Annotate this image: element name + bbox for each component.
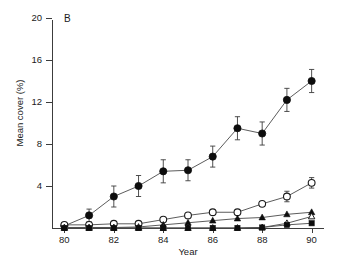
series-filled-circle [61,69,315,229]
marker-filled-square [284,222,289,227]
marker-filled-square [309,221,314,226]
marker-open-circle [259,200,266,207]
marker-filled-square [62,225,67,230]
marker-filled-circle [160,168,167,175]
marker-filled-square [161,225,166,230]
marker-open-circle [185,212,192,219]
marker-filled-circle [308,77,315,84]
marker-filled-circle [234,125,241,132]
series-canvas [0,0,342,266]
marker-filled-square [185,225,190,230]
marker-open-circle [209,209,216,216]
marker-filled-circle [184,167,191,174]
plot-area [0,0,342,266]
marker-filled-square [260,225,265,230]
marker-filled-circle [110,193,117,200]
marker-open-circle [308,179,315,186]
marker-filled-circle [135,182,142,189]
marker-filled-circle [209,153,216,160]
marker-filled-square [136,225,141,230]
series-line [64,81,311,226]
marker-filled-square [86,225,91,230]
marker-filled-square [111,225,116,230]
figure-panel-b: B 48121620 808284868890 Mean cover (%) Y… [0,0,342,266]
marker-open-circle [284,193,291,200]
marker-filled-circle [85,212,92,219]
marker-filled-circle [259,130,266,137]
marker-filled-square [235,225,240,230]
marker-filled-circle [283,96,290,103]
marker-filled-square [210,225,215,230]
